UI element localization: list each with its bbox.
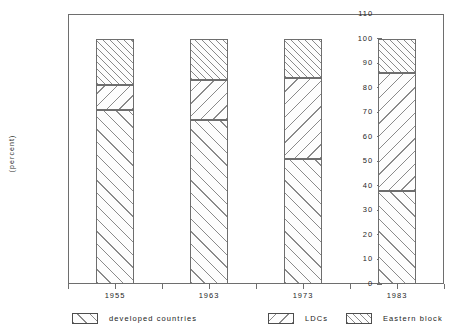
x-tick-label: 1955: [85, 291, 145, 300]
x-tick-minor: [350, 284, 351, 289]
y-tick-label: 60: [363, 132, 373, 142]
y-tick-label: 90: [363, 58, 373, 68]
x-tick-minor: [68, 284, 69, 289]
bar-segment-developed-countries: [378, 191, 416, 284]
bar-segment-eastern-block: [190, 39, 228, 81]
bar-1955: [96, 14, 134, 284]
bar-segment-ldcs: [378, 73, 416, 191]
bar-1963: [190, 14, 228, 284]
x-tick-minor: [444, 284, 445, 289]
y-tick-label: 40: [363, 181, 373, 191]
legend-item-developed-countries[interactable]: developed countries: [72, 308, 197, 328]
y-tick-label: 70: [363, 107, 373, 117]
x-tick-minor: [256, 284, 257, 289]
x-tick-1983: [397, 284, 398, 289]
y-tick-label: 20: [363, 230, 373, 240]
y-tick-label: 100: [358, 34, 373, 44]
legend-label: Eastern block: [383, 314, 443, 323]
bar-segment-developed-countries: [190, 120, 228, 284]
x-tick-1955: [115, 284, 116, 289]
bar-segment-developed-countries: [284, 159, 322, 284]
legend-swatch-icon: [268, 313, 294, 324]
bar-segment-developed-countries: [96, 110, 134, 284]
x-tick-label: 1983: [367, 291, 427, 300]
legend-swatch-icon: [72, 313, 98, 324]
legend-item-eastern-block[interactable]: Eastern block: [346, 308, 443, 328]
x-tick-1973: [303, 284, 304, 289]
legend-swatch-icon: [346, 313, 372, 324]
y-tick-label: 0: [368, 279, 373, 289]
y-axis-title: (percent): [8, 119, 15, 189]
chart-canvas: (percent) 1101009080706050403020100 1955…: [0, 0, 450, 334]
legend-item-ldcs[interactable]: LDCs: [268, 308, 328, 328]
legend: developed countriesLDCsEastern block: [0, 308, 450, 332]
y-tick-label: 30: [363, 205, 373, 215]
x-tick-label: 1963: [179, 291, 239, 300]
bar-segment-ldcs: [96, 85, 134, 110]
x-tick-1963: [209, 284, 210, 289]
y-tick-label: 110: [358, 9, 373, 19]
bar-segment-eastern-block: [378, 39, 416, 73]
bar-segment-ldcs: [190, 80, 228, 119]
legend-label: developed countries: [109, 314, 197, 323]
x-tick-minor: [162, 284, 163, 289]
y-tick-label: 10: [363, 254, 373, 264]
bar-1973: [284, 14, 322, 284]
y-axis: (percent): [0, 0, 68, 300]
y-tick-label: 50: [363, 156, 373, 166]
y-tick-label: 80: [363, 83, 373, 93]
bar-segment-eastern-block: [284, 39, 322, 78]
legend-label: LDCs: [305, 314, 328, 323]
bar-1983: [378, 14, 416, 284]
x-tick-label: 1973: [273, 291, 333, 300]
bar-segment-eastern-block: [96, 39, 134, 86]
bar-segment-ldcs: [284, 78, 322, 159]
